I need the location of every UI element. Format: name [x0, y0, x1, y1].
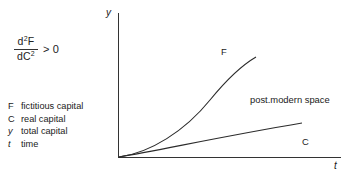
- figure-root: d2F dC2 > 0 F fictitious capital C real …: [0, 0, 346, 187]
- annotation-postmodern-space: post.modern space: [250, 94, 330, 105]
- x-axis-label: t: [334, 160, 337, 171]
- curve-label-F: F: [221, 46, 227, 57]
- plot-area: F C post.modern space y t: [0, 0, 346, 187]
- curve-label-C: C: [302, 136, 309, 147]
- curve-C: [119, 123, 302, 157]
- y-axis-label: y: [106, 7, 111, 18]
- curve-F: [119, 57, 256, 157]
